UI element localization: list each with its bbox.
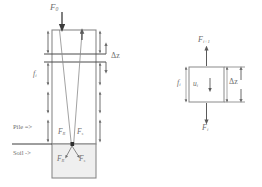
- label-shaft-friction: fi: [33, 70, 37, 79]
- figure-canvas: [0, 0, 262, 187]
- label-pile-note: Pile =>: [13, 124, 32, 131]
- label-tip-force-pile-right: Fs: [77, 128, 83, 137]
- label-tip-force-pile-left: FR: [58, 128, 65, 137]
- label-delta-z-right: Δz: [229, 78, 238, 86]
- label-top-force: F0: [50, 3, 58, 13]
- label-element-top-force: Fi+1: [198, 36, 210, 45]
- label-soil-note: Soil ->: [13, 150, 31, 157]
- label-tip-force-soil-left: FR: [57, 155, 64, 164]
- label-delta-z-left: Δz: [111, 52, 120, 60]
- label-tip-force-soil-right: Fs: [79, 155, 85, 164]
- label-element-friction: fi: [177, 79, 181, 88]
- label-element-displacement: ui: [193, 80, 198, 89]
- label-element-bottom-force: Fi: [202, 124, 208, 133]
